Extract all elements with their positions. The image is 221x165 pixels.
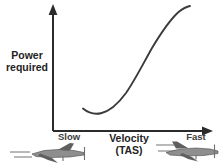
airplane-fast-icon [156,142,218,162]
power-required-curve-figure: Power required Velocity (TAS) Slow Fast [0,0,221,165]
airplane-slow-icon [10,143,85,163]
power-required-curve [83,6,190,114]
x-axis-label: Velocity (TAS) [98,133,160,157]
slow-annotation-label: Slow [52,132,86,143]
fast-annotation-label: Fast [180,132,212,143]
y-axis-label: Power required [4,50,50,74]
y-axis-arrowhead [49,4,58,15]
